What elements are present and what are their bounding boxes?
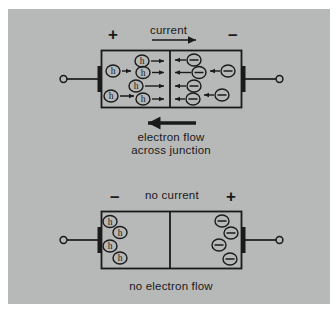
electron-flow-caption-line1: electron flow (111, 131, 231, 144)
svg-text:h: h (109, 91, 114, 101)
polarity-right-reverse: + (226, 188, 236, 205)
electron-carrier (224, 227, 238, 239)
hole-carrier: h (136, 93, 164, 105)
electron-carrier (204, 89, 229, 101)
hole-carrier: h (135, 55, 164, 67)
electron-carrier (175, 93, 200, 105)
hole-carrier: h (136, 67, 164, 79)
svg-text:h: h (108, 217, 113, 227)
terminal-left-reverse (60, 237, 67, 244)
svg-text:h: h (118, 253, 123, 263)
hole-carrier: h (113, 252, 127, 264)
hole-carrier: h (104, 90, 134, 102)
electron-carriers-reverse (212, 215, 238, 265)
hole-carrier: h (106, 65, 131, 77)
svg-text:h: h (111, 66, 116, 76)
terminal-right-reverse (276, 237, 283, 244)
current-label: current (150, 24, 187, 37)
polarity-left-reverse: – (110, 188, 120, 205)
hole-carrier: h (129, 80, 164, 92)
svg-text:h: h (118, 228, 123, 238)
hole-carrier: h (103, 240, 117, 252)
diode-bias-figure: h h h h (0, 0, 336, 310)
svg-text:h: h (141, 94, 146, 104)
electron-carrier (223, 253, 237, 265)
electron-carrier (215, 215, 229, 227)
electron-carrier (210, 65, 235, 77)
hole-carrier: h (113, 227, 127, 239)
reverse-bias-diagram: h h h h (60, 212, 283, 269)
electron-carriers-forward (175, 54, 235, 105)
terminal-right-forward (276, 76, 283, 83)
hole-carriers-forward: h h h h (104, 55, 164, 105)
hole-carrier: h (103, 216, 117, 228)
svg-text:h: h (134, 81, 139, 91)
diode-body-forward (102, 51, 242, 108)
forward-bias-diagram: h h h h (60, 40, 283, 123)
svg-text:h: h (141, 68, 146, 78)
diode-body-reverse (102, 212, 242, 269)
no-current-label: no current (145, 189, 199, 202)
electron-carrier (175, 67, 206, 79)
electron-carrier (212, 239, 226, 251)
polarity-right-forward: – (228, 26, 238, 43)
terminal-left-forward (60, 76, 67, 83)
no-electron-flow-caption: no electron flow (111, 280, 231, 293)
hole-carriers-reverse: h h h h (103, 216, 127, 265)
polarity-left-forward: + (108, 26, 118, 43)
svg-text:h: h (140, 56, 145, 66)
svg-text:h: h (108, 241, 113, 251)
electron-flow-caption-line2: across junction (111, 144, 231, 157)
electron-carrier (175, 80, 201, 92)
electron-carrier (175, 54, 201, 66)
